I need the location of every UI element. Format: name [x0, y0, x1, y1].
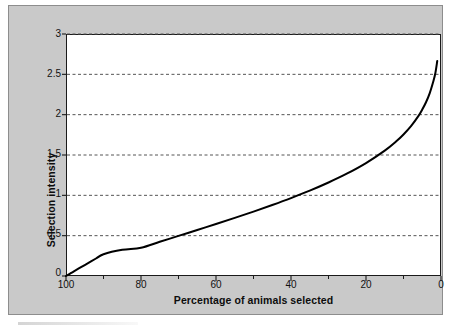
figure-container: 3 2.5 2 1.5 1 0.5 0 100 80 60 40 20 0 Pe…: [0, 0, 455, 331]
chart-svg: [9, 6, 455, 331]
data-curve: [66, 61, 437, 276]
gridlines: [67, 34, 440, 236]
axis-ticks: [62, 34, 441, 281]
caption-smudge: [18, 322, 138, 325]
chart-panel: 3 2.5 2 1.5 1 0.5 0 100 80 60 40 20 0 Pe…: [8, 5, 443, 315]
